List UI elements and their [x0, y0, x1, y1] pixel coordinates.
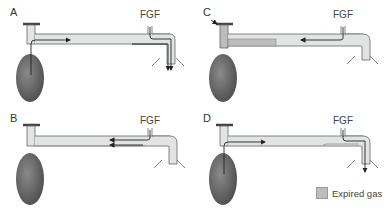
panel-label-b: B [10, 112, 17, 124]
fgf-label-d: FGF [333, 115, 353, 126]
breathing-system-diagram [0, 0, 386, 213]
reservoir-bag [16, 54, 44, 102]
legend: Expired gas [316, 187, 382, 199]
panel-b-diagram [16, 125, 185, 205]
panel-label-a: A [10, 6, 17, 18]
expired-gas-region [228, 39, 276, 46]
panel-label-c: C [203, 6, 211, 18]
fgf-label-b: FGF [140, 115, 160, 126]
legend-label: Expired gas [332, 188, 382, 199]
valve-vent-arrow [211, 20, 217, 24]
panel-label-d: D [203, 112, 211, 124]
fgf-label-c: FGF [333, 9, 353, 20]
fgf-label-a: FGF [140, 9, 160, 20]
panel-a-diagram [16, 24, 184, 102]
legend-swatch-expired-gas [316, 187, 328, 199]
panel-c-diagram [209, 20, 378, 102]
